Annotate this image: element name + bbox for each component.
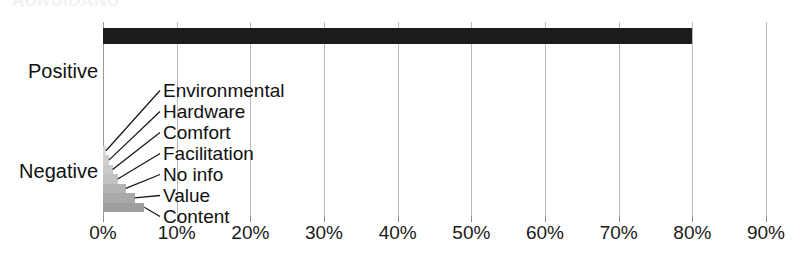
y-axis-label-negative: Negative	[19, 160, 98, 183]
gridline-90	[766, 22, 767, 220]
bar-segment-no-info	[103, 184, 126, 193]
segment-callout-labels: EnvironmentalHardwareComfortFacilitation…	[163, 80, 383, 227]
bar-segment-facilitation	[103, 174, 118, 183]
bar-segment-positive	[103, 28, 692, 44]
stacked-bar-chart: AUNUIDANU Positive Negative 0%10%20%30%4…	[0, 0, 798, 264]
callout-label-comfort: Comfort	[163, 122, 383, 143]
callout-label-facilitation: Facilitation	[163, 143, 383, 164]
callout-label-no-info: No info	[163, 164, 383, 185]
callout-label-content: Content	[163, 206, 383, 227]
callout-label-environmental: Environmental	[163, 80, 383, 101]
x-tick-label-60: 60%	[515, 222, 575, 244]
x-tick-label-0: 0%	[73, 222, 133, 244]
bar-segment-comfort	[103, 165, 113, 174]
bar-segment-value	[103, 193, 135, 202]
gridline-60	[545, 22, 546, 220]
gridline-70	[619, 22, 620, 220]
x-tick-label-80: 80%	[662, 222, 722, 244]
bar-segment-content	[103, 203, 144, 212]
gridline-40	[398, 22, 399, 220]
gridline-80	[692, 22, 693, 220]
bar-segment-hardware	[103, 155, 109, 164]
x-tick-label-90: 90%	[736, 222, 796, 244]
x-tick-label-50: 50%	[441, 222, 501, 244]
x-tick-label-70: 70%	[589, 222, 649, 244]
callout-label-hardware: Hardware	[163, 101, 383, 122]
y-axis-label-positive: Positive	[28, 60, 98, 83]
callout-label-value: Value	[163, 185, 383, 206]
gridline-50	[471, 22, 472, 220]
bar-segment-environmental	[103, 146, 106, 155]
